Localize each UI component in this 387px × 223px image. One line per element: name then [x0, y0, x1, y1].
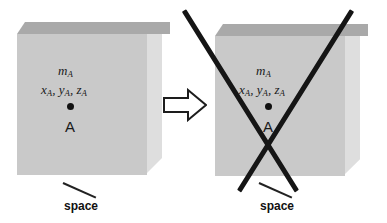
slab-top-face	[17, 22, 170, 34]
coord-sep-2: ,	[268, 82, 271, 97]
space-leader-line-before	[63, 182, 97, 198]
mass-subscript: A	[265, 69, 270, 79]
space-caption-after: space	[260, 199, 294, 213]
slab-right-face	[145, 34, 162, 175]
coord-sep-1: ,	[52, 82, 55, 97]
point-name-label-before: A	[65, 119, 75, 134]
space-caption-before: space	[64, 199, 98, 213]
coordinates-label-before: xA, yA, zA	[41, 83, 87, 98]
mass-symbol: m	[256, 63, 265, 78]
coordinates-label-after: xA, yA, zA	[239, 83, 285, 98]
space-slab-before: mA xA, yA, zA A	[17, 22, 162, 175]
point-mass-dot-before	[67, 103, 74, 110]
mass-subscript: A	[67, 69, 72, 79]
panel-after: mA xA, yA, zA A space	[193, 0, 387, 223]
space-leader-line-after	[259, 182, 293, 198]
point-name-label-after: A	[263, 119, 273, 134]
figure-canvas: mA xA, yA, zA A space mA xA,	[0, 0, 387, 223]
mass-symbol: m	[58, 63, 67, 78]
coord-sep-1: ,	[250, 82, 253, 97]
coord-z-subscript: A	[279, 88, 284, 98]
coord-sep-2: ,	[70, 82, 73, 97]
slab-right-face	[343, 36, 360, 176]
slab-front-face	[17, 34, 147, 175]
mass-label-after: mA	[256, 64, 271, 79]
mass-label-before: mA	[58, 64, 73, 79]
point-mass-dot-after	[265, 103, 272, 110]
coord-z-subscript: A	[81, 88, 86, 98]
